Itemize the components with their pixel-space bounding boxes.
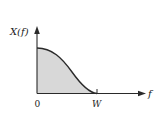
spectrum-fill (37, 48, 97, 94)
x-axis-arrow-icon (138, 91, 146, 96)
band-edge-label: W (92, 99, 102, 109)
spectrum-plot: X(f) f 0 W (0, 0, 165, 114)
y-axis-label: X(f) (9, 26, 29, 37)
x-axis-label: f (147, 88, 154, 99)
y-axis-arrow-icon (34, 26, 40, 34)
origin-label: 0 (35, 99, 41, 109)
